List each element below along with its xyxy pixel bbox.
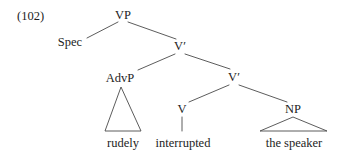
branch-vbar1-to-vbar2 <box>185 54 230 69</box>
np-triangle-icon <box>260 117 327 131</box>
terminal-labels-group: rudely interrupted the speaker <box>107 136 323 150</box>
branch-vp-to-vbar1 <box>128 22 176 39</box>
branch-vbar2-to-v <box>189 85 229 102</box>
node-labels-group: (102) VP Spec V′ AdvP V′ V NP <box>17 8 301 116</box>
node-v-bar-upper: V′ <box>174 39 186 53</box>
node-spec: Spec <box>58 35 83 49</box>
node-v: V <box>177 102 186 116</box>
node-v-bar-lower: V′ <box>228 70 240 84</box>
node-np: NP <box>285 102 301 116</box>
terminal-the-speaker: the speaker <box>266 136 323 150</box>
terminal-rudely: rudely <box>107 136 140 150</box>
syntax-tree-figure: (102) VP Spec V′ AdvP V′ V NP rudely int… <box>0 0 342 153</box>
example-number: (102) <box>17 9 44 23</box>
branch-vbar2-to-np <box>239 85 287 102</box>
node-advp: AdvP <box>106 71 135 85</box>
terminal-interrupted: interrupted <box>156 136 212 150</box>
syntax-tree-canvas: (102) VP Spec V′ AdvP V′ V NP rudely int… <box>0 0 342 153</box>
branch-vbar1-to-advp <box>138 54 175 70</box>
branch-vp-to-spec <box>87 22 118 38</box>
advp-triangle-icon <box>105 87 141 131</box>
node-vp: VP <box>115 8 131 22</box>
